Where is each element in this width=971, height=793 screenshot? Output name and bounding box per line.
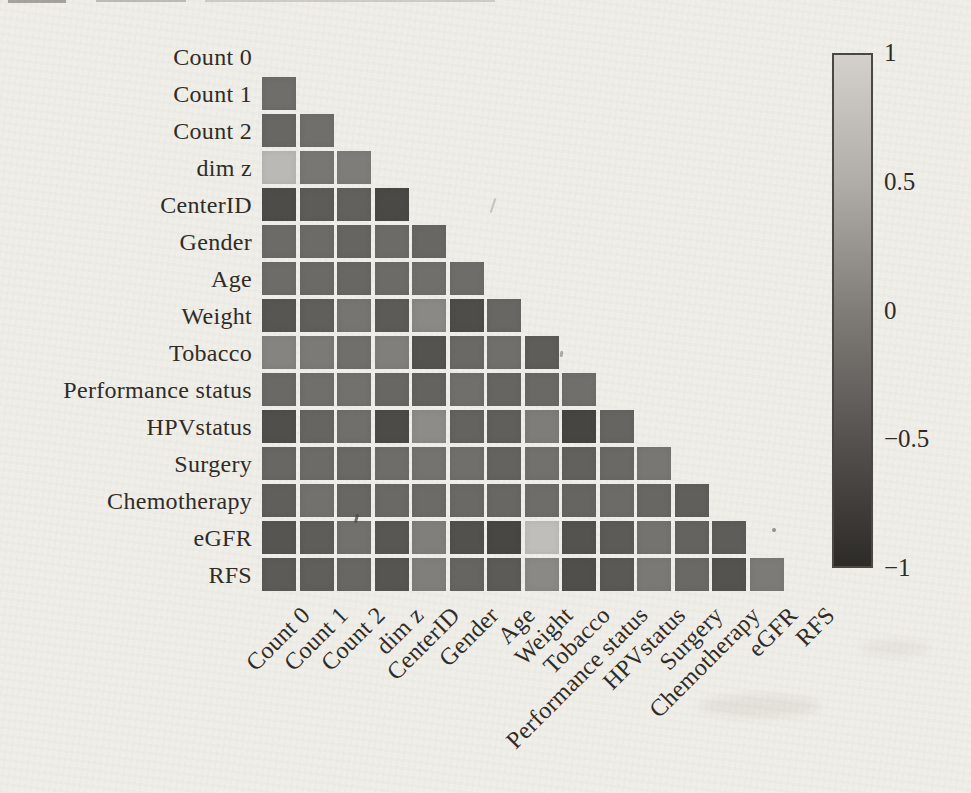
matrix-cell: [525, 336, 559, 369]
colorbar-tick-label: 0: [884, 297, 897, 325]
matrix-cell: [600, 484, 634, 517]
matrix-cell: [525, 521, 559, 554]
matrix-cell: [375, 447, 409, 480]
row-label: RFS: [0, 560, 252, 590]
matrix-cell: [487, 410, 521, 443]
matrix-cell: [262, 558, 296, 591]
matrix-cell: [337, 373, 371, 406]
matrix-cell: [562, 558, 596, 591]
matrix-cell: [262, 336, 296, 369]
scanned-page: Count 0Count 1Count 2dim zCenterIDGender…: [0, 0, 971, 793]
scan-speck: [490, 198, 497, 213]
row-label: HPVstatus: [0, 412, 252, 442]
matrix-cell: [375, 336, 409, 369]
matrix-cell: [412, 262, 446, 295]
matrix-cell: [262, 373, 296, 406]
colorbar-tick-label: −1: [884, 554, 911, 582]
matrix-cell: [300, 114, 334, 147]
column-label: RFS: [790, 601, 841, 652]
matrix-cell: [562, 410, 596, 443]
matrix-cell: [375, 299, 409, 332]
matrix-cell: [262, 410, 296, 443]
row-label: Count 1: [0, 79, 252, 109]
matrix-cell: [562, 484, 596, 517]
matrix-cell: [600, 447, 634, 480]
matrix-cell: [450, 336, 484, 369]
matrix-cell: [262, 225, 296, 258]
matrix-cell: [262, 447, 296, 480]
colorbar-tick-label: 1: [884, 39, 897, 67]
matrix-cell: [262, 262, 296, 295]
matrix-cell: [337, 484, 371, 517]
matrix-cell: [412, 225, 446, 258]
matrix-cell: [262, 151, 296, 184]
matrix-cell: [375, 521, 409, 554]
matrix-cell: [300, 410, 334, 443]
matrix-cell: [337, 225, 371, 258]
matrix-cell: [412, 373, 446, 406]
matrix-cell: [412, 484, 446, 517]
matrix-cell: [300, 299, 334, 332]
matrix-cell: [262, 299, 296, 332]
scan-speck: [560, 351, 564, 357]
matrix-cell: [637, 447, 671, 480]
matrix-cell: [300, 262, 334, 295]
matrix-cell: [675, 521, 709, 554]
matrix-cell: [675, 484, 709, 517]
matrix-cell: [525, 558, 559, 591]
matrix-cell: [450, 447, 484, 480]
matrix-cell: [450, 558, 484, 591]
matrix-cell: [337, 151, 371, 184]
matrix-cell: [337, 558, 371, 591]
row-label: CenterID: [0, 190, 252, 220]
matrix-cell: [412, 336, 446, 369]
matrix-cell: [262, 188, 296, 221]
matrix-cell: [487, 558, 521, 591]
matrix-cell: [450, 299, 484, 332]
matrix-cell: [450, 410, 484, 443]
matrix-cell: [487, 336, 521, 369]
matrix-cell: [600, 558, 634, 591]
matrix-cell: [450, 521, 484, 554]
matrix-cell: [412, 299, 446, 332]
matrix-cell: [450, 484, 484, 517]
colorbar: [832, 53, 873, 568]
matrix-cell: [375, 188, 409, 221]
matrix-cell: [300, 151, 334, 184]
matrix-cell: [525, 410, 559, 443]
matrix-cell: [262, 114, 296, 147]
matrix-cell: [337, 447, 371, 480]
matrix-cell: [450, 373, 484, 406]
row-label: Surgery: [0, 449, 252, 479]
row-label: Gender: [0, 227, 252, 257]
matrix-cell: [300, 225, 334, 258]
matrix-cell: [337, 410, 371, 443]
page-top-crop-artifact: [96, 0, 186, 2]
row-label: eGFR: [0, 523, 252, 553]
scan-speck: [772, 528, 776, 532]
matrix-cell: [450, 262, 484, 295]
matrix-cell: [750, 558, 784, 591]
page-top-crop-artifact: [8, 0, 66, 3]
matrix-cell: [525, 373, 559, 406]
row-label: Count 2: [0, 116, 252, 146]
matrix-cell: [562, 521, 596, 554]
matrix-cell: [600, 521, 634, 554]
matrix-cell: [300, 484, 334, 517]
matrix-cell: [675, 558, 709, 591]
matrix-cell: [337, 336, 371, 369]
row-label: dim z: [0, 153, 252, 183]
matrix-cell: [525, 447, 559, 480]
matrix-cell: [600, 410, 634, 443]
matrix-cell: [412, 558, 446, 591]
matrix-cell: [300, 447, 334, 480]
matrix-cell: [412, 447, 446, 480]
matrix-cell: [487, 484, 521, 517]
matrix-cell: [375, 373, 409, 406]
matrix-cell: [412, 410, 446, 443]
matrix-cell: [262, 521, 296, 554]
matrix-cell: [712, 521, 746, 554]
row-label: Age: [0, 264, 252, 294]
matrix-cell: [300, 336, 334, 369]
matrix-cell: [637, 558, 671, 591]
